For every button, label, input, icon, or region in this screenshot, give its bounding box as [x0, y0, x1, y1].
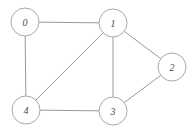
graph-node-label-4: 4 — [24, 105, 29, 116]
graph-node-label-3: 3 — [110, 106, 116, 117]
graph-node-label-0: 0 — [23, 17, 28, 28]
node-layer: 01234 — [11, 8, 186, 125]
edge-layer — [25, 22, 161, 111]
graph-node-label-2: 2 — [170, 62, 175, 73]
graph-edge-1-4 — [36, 33, 103, 100]
graph-node-3[interactable]: 3 — [99, 97, 127, 125]
graph-edge-3-4 — [40, 110, 99, 111]
graph-node-1[interactable]: 1 — [99, 9, 127, 37]
graph-svg: 01234 — [0, 0, 195, 129]
graph-edge-2-3 — [124, 75, 161, 102]
graph-node-2[interactable]: 2 — [158, 53, 186, 81]
graph-edge-0-1 — [39, 22, 99, 23]
graph-node-0[interactable]: 0 — [11, 8, 39, 36]
graph-node-4[interactable]: 4 — [12, 96, 40, 124]
graph-edge-0-4 — [25, 36, 26, 96]
graph-edge-1-2 — [124, 31, 161, 58]
graph-node-label-1: 1 — [111, 18, 116, 29]
graph-diagram-canvas: 01234 — [0, 0, 195, 129]
